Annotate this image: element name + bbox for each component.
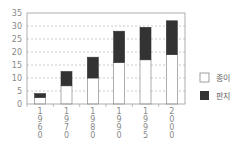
legend-label-paper: 종이 (216, 73, 230, 83)
y-tick-label: 35 (12, 9, 22, 18)
bar-segment (35, 94, 46, 98)
x-axis-ticks: 196019701980199019952000 (27, 104, 174, 140)
plot-frame (27, 13, 185, 104)
bar-segment (166, 55, 177, 104)
y-tick-label: 10 (12, 74, 22, 83)
gridlines (27, 26, 185, 91)
bar-segment (114, 62, 125, 104)
bars (35, 21, 178, 104)
legend-label-paperboard: 판지 (216, 92, 230, 101)
y-tick-label: 5 (17, 87, 22, 96)
y-tick-label: 25 (12, 35, 22, 44)
bar-segment (87, 57, 98, 78)
bar-segment (87, 78, 98, 104)
legend-swatch-paperboard (200, 91, 209, 100)
bar-segment (61, 72, 72, 86)
y-tick-label: 30 (12, 22, 22, 31)
x-tick-label: 1990 (117, 107, 122, 140)
x-tick-label: 1995 (143, 107, 148, 140)
bar-segment (140, 27, 151, 60)
bar-segment (61, 86, 72, 104)
x-tick-label: 1960 (38, 107, 43, 140)
y-tick-label: 15 (12, 61, 22, 70)
stacked-bar-chart: 05101520253035 196019701980199019952000 … (0, 0, 246, 146)
x-tick-label: 1970 (64, 107, 69, 140)
bar-segment (140, 60, 151, 104)
legend: 종이 판지 (200, 73, 230, 101)
x-tick-label: 2000 (169, 107, 174, 140)
x-tick-label: 1980 (90, 107, 95, 140)
legend-swatch-paper (200, 73, 209, 82)
y-axis-ticks: 05101520253035 (12, 9, 22, 109)
bar-segment (35, 98, 46, 105)
bar-segment (114, 31, 125, 62)
y-tick-label: 20 (12, 48, 22, 57)
y-tick-label: 0 (17, 100, 22, 109)
bar-segment (166, 21, 177, 55)
